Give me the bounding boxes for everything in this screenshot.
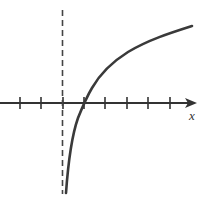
function-graph: x	[0, 0, 207, 198]
x-axis-label: x	[188, 108, 195, 123]
log-curve	[66, 26, 192, 193]
